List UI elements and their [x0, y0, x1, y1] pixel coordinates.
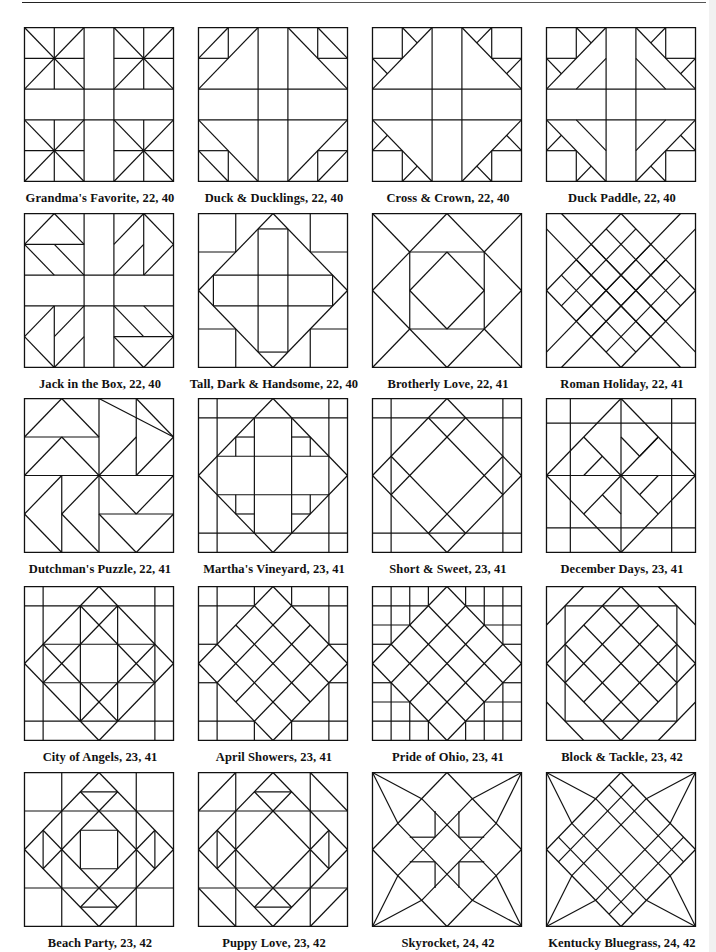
- quilt-block-caption: City of Angels, 23, 41: [3, 750, 197, 765]
- page-header-rule-right: [300, 2, 706, 3]
- quilt-block-diagram: [23, 585, 175, 742]
- page-edge-strip: [709, 0, 716, 952]
- quilt-block-diagram: [371, 771, 523, 928]
- quilt-block-caption: December Days, 23, 41: [525, 562, 716, 577]
- quilt-block-diagram: [197, 771, 349, 928]
- quilt-block-caption: Roman Holiday, 22, 41: [525, 377, 716, 392]
- quilt-block-diagram: [545, 397, 697, 554]
- quilt-block-block-tackle: Block & Tackle, 23, 42: [545, 585, 699, 742]
- quilt-block-diagram: [23, 26, 175, 183]
- quilt-block-kentucky-bluegrass: Kentucky Bluegrass, 24, 42: [545, 771, 699, 928]
- quilt-block-diagram: [545, 585, 697, 742]
- quilt-block-caption: Short & Sweet, 23, 41: [351, 562, 545, 577]
- quilt-block-caption: Kentucky Bluegrass, 24, 42: [525, 936, 716, 951]
- quilt-block-diagram: [23, 771, 175, 928]
- quilt-block-diagram: [371, 212, 523, 369]
- quilt-block-diagram: [197, 585, 349, 742]
- quilt-block-caption: Grandma's Favorite, 22, 40: [3, 191, 197, 206]
- quilt-block-caption: Duck & Ducklings, 22, 40: [177, 191, 371, 206]
- quilt-block-cross-crown: Cross & Crown, 22, 40: [371, 26, 525, 183]
- quilt-block-diagram: [545, 212, 697, 369]
- quilt-block-caption: Martha's Vineyard, 23, 41: [177, 562, 371, 577]
- quilt-block-tall-dark-handsome: Tall, Dark & Handsome, 22, 40: [197, 212, 351, 369]
- quilt-block-caption: Duck Paddle, 22, 40: [525, 191, 716, 206]
- quilt-block-diagram: [371, 26, 523, 183]
- quilt-block-diagram: [23, 397, 175, 554]
- quilt-block-pride-of-ohio: Pride of Ohio, 23, 41: [371, 585, 525, 742]
- quilt-block-dutchman-s-puzzle: Dutchman's Puzzle, 22, 41: [23, 397, 177, 554]
- quilt-block-caption: Tall, Dark & Handsome, 22, 40: [177, 377, 371, 392]
- quilt-block-brotherly-love: Brotherly Love, 22, 41: [371, 212, 525, 369]
- quilt-block-city-of-angels: City of Angels, 23, 41: [23, 585, 177, 742]
- quilt-block-caption: Brotherly Love, 22, 41: [351, 377, 545, 392]
- quilt-block-jack-in-the-box: Jack in the Box, 22, 40: [23, 212, 177, 369]
- quilt-block-grandma-s-favorite: Grandma's Favorite, 22, 40: [23, 26, 177, 183]
- quilt-block-roman-holiday: Roman Holiday, 22, 41: [545, 212, 699, 369]
- quilt-block-martha-s-vineyard: Martha's Vineyard, 23, 41: [197, 397, 351, 554]
- quilt-block-diagram: [371, 397, 523, 554]
- quilt-block-april-showers: April Showers, 23, 41: [197, 585, 351, 742]
- quilt-block-diagram: [545, 771, 697, 928]
- quilt-block-duck-ducklings: Duck & Ducklings, 22, 40: [197, 26, 351, 183]
- quilt-block-short-sweet: Short & Sweet, 23, 41: [371, 397, 525, 554]
- quilt-block-diagram: [197, 212, 349, 369]
- quilt-block-diagram: [23, 212, 175, 369]
- quilt-block-caption: Puppy Love, 23, 42: [177, 936, 371, 951]
- quilt-block-beach-party: Beach Party, 23, 42: [23, 771, 177, 928]
- quilt-block-diagram: [197, 397, 349, 554]
- quilt-block-skyrocket: Skyrocket, 24, 42: [371, 771, 525, 928]
- quilt-block-caption: Dutchman's Puzzle, 22, 41: [3, 562, 197, 577]
- quilt-block-caption: Jack in the Box, 22, 40: [3, 377, 197, 392]
- quilt-block-caption: Pride of Ohio, 23, 41: [351, 750, 545, 765]
- quilt-block-caption: Skyrocket, 24, 42: [351, 936, 545, 951]
- quilt-block-diagram: [545, 26, 697, 183]
- quilt-block-caption: Cross & Crown, 22, 40: [351, 191, 545, 206]
- quilt-block-december-days: December Days, 23, 41: [545, 397, 699, 554]
- quilt-block-caption: April Showers, 23, 41: [177, 750, 371, 765]
- quilt-block-caption: Beach Party, 23, 42: [3, 936, 197, 951]
- quilt-block-diagram: [197, 26, 349, 183]
- quilt-block-puppy-love: Puppy Love, 23, 42: [197, 771, 351, 928]
- quilt-block-duck-paddle: Duck Paddle, 22, 40: [545, 26, 699, 183]
- quilt-block-diagram: [371, 585, 523, 742]
- quilt-block-caption: Block & Tackle, 23, 42: [525, 750, 716, 765]
